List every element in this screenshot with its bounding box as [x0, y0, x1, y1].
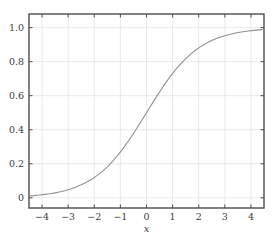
y-tick-label: 0: [18, 192, 24, 203]
y-tick-label: 1.0: [9, 22, 24, 33]
x-tick-label: −2: [87, 211, 101, 222]
x-tick-label: 0: [143, 211, 149, 222]
x-tick-label: −3: [61, 211, 75, 222]
x-axis-label: x: [144, 223, 150, 234]
x-tick-label: −1: [113, 211, 127, 222]
y-tick-label: 0.8: [9, 56, 24, 67]
figure-container: −4−3−2−101234 00.20.40.60.81.0 x: [0, 0, 276, 245]
x-tick-label: 4: [248, 211, 254, 222]
x-tick-label: 3: [222, 211, 228, 222]
y-tick-label: 0.4: [9, 124, 24, 135]
sigmoid-chart: −4−3−2−101234 00.20.40.60.81.0 x: [0, 0, 276, 245]
y-tick-label: 0.2: [9, 158, 24, 169]
x-tick-label: 1: [170, 211, 176, 222]
x-tick-label: 2: [196, 211, 202, 222]
y-tick-label: 0.6: [9, 90, 24, 101]
x-axis-tick-labels: −4−3−2−101234: [35, 211, 254, 222]
x-tick-label: −4: [35, 211, 49, 222]
